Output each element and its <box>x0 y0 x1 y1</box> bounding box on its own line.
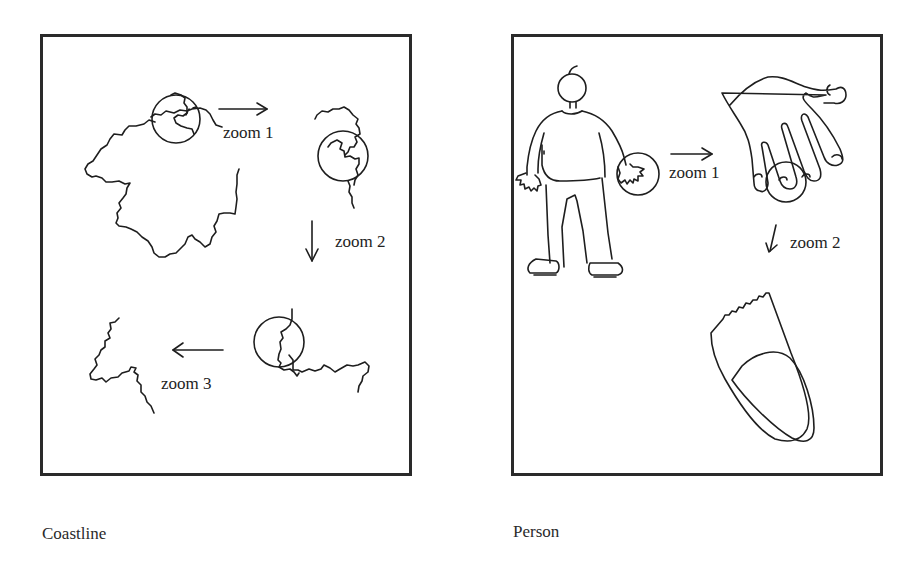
zoom-circle-2 <box>318 131 368 181</box>
person-drawing <box>514 37 880 473</box>
step-label-zoom-2: zoom 2 <box>790 233 841 253</box>
zoom-circle-3 <box>254 317 304 367</box>
step-label-zoom-1: zoom 1 <box>223 123 274 143</box>
coastline-shape-zoom3 <box>90 318 154 413</box>
hand-drawing <box>722 77 846 192</box>
caption-coastline: Coastline <box>42 524 106 544</box>
zoom-circle-1 <box>152 95 200 143</box>
person-panel: zoom 1 zoom 2 <box>511 34 883 476</box>
coastline-panel: zoom 1 zoom 2 zoom 3 <box>40 34 412 476</box>
caption-person: Person <box>513 522 559 542</box>
coastline-drawing <box>43 37 409 473</box>
coastline-shape-full <box>85 107 239 257</box>
zoom-circle-finger <box>766 162 806 202</box>
person-figure <box>516 66 644 277</box>
fingertip-drawing <box>711 293 809 441</box>
step-label-zoom-3: zoom 3 <box>161 374 212 394</box>
step-label-zoom-2: zoom 2 <box>335 232 386 252</box>
step-label-zoom-1: zoom 1 <box>669 163 720 183</box>
zoom-circle-hand <box>617 153 659 195</box>
